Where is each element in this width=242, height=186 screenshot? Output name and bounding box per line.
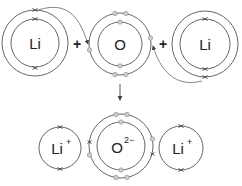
ionic-bonding-diagram: Li + O + Li (0, 0, 242, 186)
ion-charge: 2− (124, 135, 134, 145)
ion-symbol: O (111, 139, 123, 156)
ion-charge: + (66, 137, 71, 147)
ion-symbol: Li (172, 140, 184, 157)
oxygen-atom: O (87, 11, 152, 76)
lithium-atom-left: Li (2, 9, 68, 77)
ion-charge: + (187, 137, 192, 147)
ion-symbol: Li (51, 140, 63, 157)
lithium-ion-right: Li + (159, 125, 203, 172)
atom-symbol: Li (29, 35, 41, 52)
oxide-ion: O 2− (87, 112, 154, 179)
lithium-ion-left: Li + (39, 126, 81, 171)
plus-sign-right: + (159, 36, 167, 52)
plus-sign-left: + (73, 36, 81, 52)
atom-symbol: O (114, 36, 126, 53)
lithium-atom-right: Li (172, 11, 238, 79)
atom-symbol: Li (199, 36, 211, 53)
